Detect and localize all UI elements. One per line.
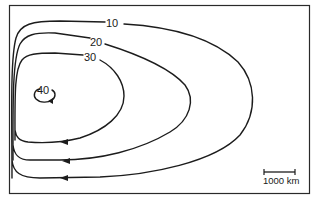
arrow-icon-contour-40	[48, 98, 53, 104]
diagram-canvas: 10 20 30 40 1000 km	[0, 0, 318, 202]
contour-label-20: 20	[90, 36, 102, 48]
arrow-icon-contour-10	[60, 175, 68, 181]
contour-label-30: 30	[84, 51, 96, 63]
scale-bar-label: 1000 km	[263, 175, 300, 186]
arrow-icon-contour-30	[60, 139, 68, 145]
contour-30	[15, 53, 124, 143]
contour-diagram: 10 20 30 40 1000 km	[0, 0, 318, 202]
contour-20	[13, 33, 190, 160]
contour-label-40: 40	[37, 84, 49, 96]
arrow-icon-contour-20	[62, 158, 70, 164]
basin-frame	[10, 6, 310, 194]
contour-10	[12, 21, 253, 178]
contour-label-10: 10	[106, 17, 118, 29]
scale-bar: 1000 km	[263, 169, 300, 186]
